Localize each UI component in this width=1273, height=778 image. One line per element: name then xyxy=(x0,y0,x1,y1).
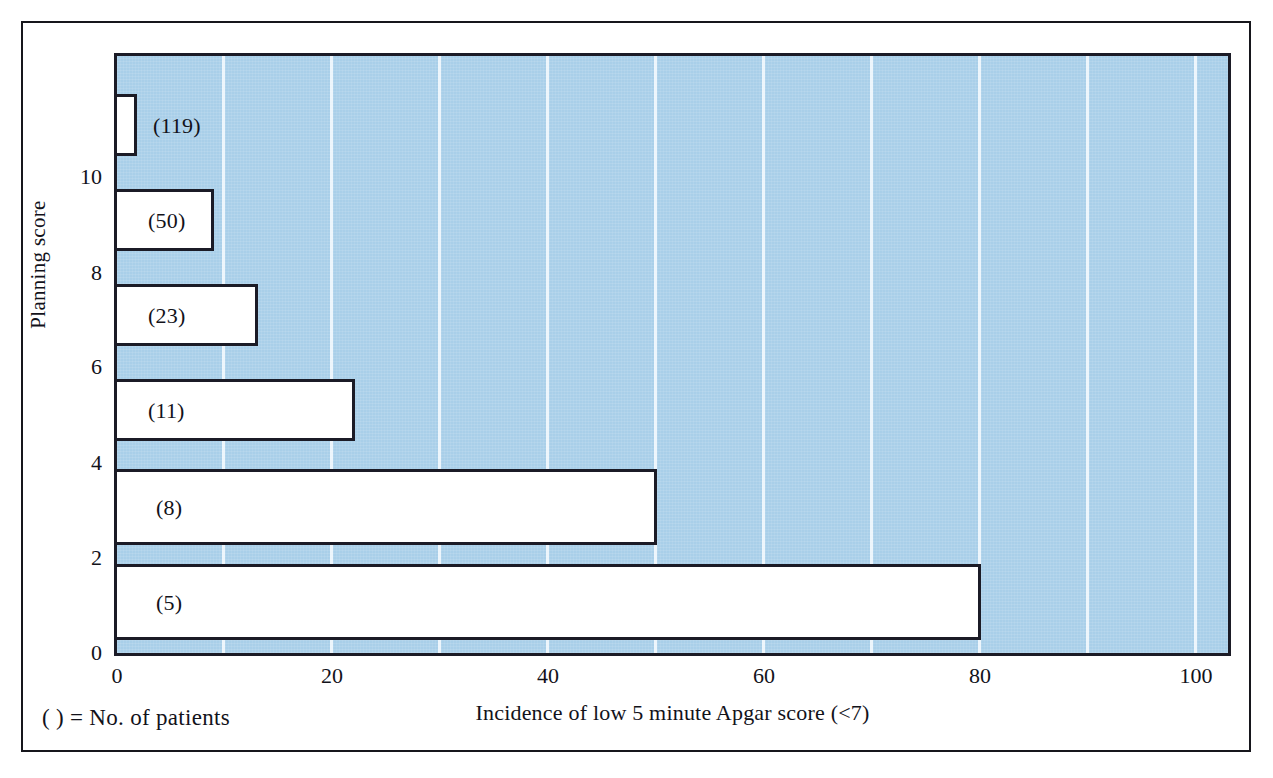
bar-label-planning-score-10: (119) xyxy=(153,113,201,139)
bar-planning-score-10[interactable] xyxy=(114,94,137,156)
bar-planning-score-0[interactable] xyxy=(114,564,981,640)
x-tick-label-80: 80 xyxy=(969,663,991,689)
bar-label-planning-score-8: (50) xyxy=(148,208,185,234)
y-axis-tick-labels: 10 8 6 4 2 0 xyxy=(28,53,102,656)
x-axis-title: Incidence of low 5 minute Apgar score (<… xyxy=(114,700,1231,726)
y-tick-label-0: 0 xyxy=(42,640,102,666)
plot-area: (119) (50) (23) (11) (8) (5) xyxy=(114,53,1231,656)
bar-label-planning-score-2: (8) xyxy=(156,495,182,521)
y-tick-label-8: 8 xyxy=(42,260,102,286)
gridline-90 xyxy=(1086,56,1089,653)
x-tick-label-40: 40 xyxy=(537,663,559,689)
bar-label-planning-score-4: (11) xyxy=(148,398,185,424)
y-tick-label-4: 4 xyxy=(42,450,102,476)
y-tick-label-2: 2 xyxy=(42,545,102,571)
gridline-100 xyxy=(1194,56,1197,653)
x-tick-label-20: 20 xyxy=(321,663,343,689)
bar-label-planning-score-0: (5) xyxy=(156,590,182,616)
bar-planning-score-6[interactable] xyxy=(114,284,258,346)
bar-planning-score-2[interactable] xyxy=(114,469,657,545)
y-tick-label-10: 10 xyxy=(42,164,102,190)
x-tick-label-60: 60 xyxy=(753,663,775,689)
plot-inner: (119) (50) (23) (11) (8) (5) xyxy=(117,56,1228,653)
figure-footnote: ( ) = No. of patients xyxy=(42,705,230,731)
x-tick-label-0: 0 xyxy=(112,663,123,689)
y-tick-label-6: 6 xyxy=(42,354,102,380)
x-tick-label-100: 100 xyxy=(1180,663,1213,689)
bar-label-planning-score-6: (23) xyxy=(148,303,185,329)
figure-root: Planning score 10 8 6 4 2 0 xyxy=(0,0,1273,778)
